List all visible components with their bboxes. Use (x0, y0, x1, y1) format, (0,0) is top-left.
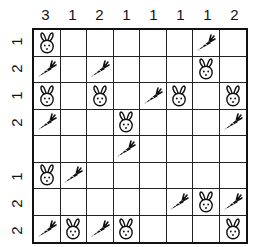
carrot-icon (89, 219, 111, 239)
grid-cell-r3-c6[interactable] (193, 110, 220, 137)
bunny-icon (196, 58, 216, 80)
grid-cell-r6-c0[interactable] (34, 189, 61, 216)
bunny-icon (116, 111, 136, 133)
grid-cell-r3-c7[interactable] (220, 110, 247, 137)
bunny-icon (169, 85, 189, 107)
row-clue (4, 136, 28, 163)
carrot-icon (222, 112, 244, 132)
bunny-icon (223, 85, 243, 107)
carrot-icon (168, 192, 190, 212)
column-clue: 1 (167, 6, 194, 24)
grid-cell-r7-c2[interactable] (87, 216, 114, 243)
grid-cell-r7-c5[interactable] (167, 216, 194, 243)
grid-cell-r3-c3[interactable] (114, 110, 141, 137)
bunny-icon (196, 191, 216, 213)
grid-cell-r6-c6[interactable] (193, 189, 220, 216)
carrot-icon (36, 112, 58, 132)
grid-cell-r6-c4[interactable] (140, 189, 167, 216)
carrot-icon (142, 86, 164, 106)
column-clue: 1 (140, 6, 167, 24)
grid-cell-r3-c0[interactable] (34, 110, 61, 137)
grid-cell-r4-c1[interactable] (61, 136, 88, 163)
grid-cell-r2-c3[interactable] (114, 83, 141, 110)
column-clue: 3 (32, 6, 59, 24)
grid-cell-r2-c1[interactable] (61, 83, 88, 110)
grid-cell-r0-c0[interactable] (34, 30, 61, 57)
grid-cell-r7-c6[interactable] (193, 216, 220, 243)
row-clue: 2 (4, 217, 28, 244)
column-clue: 1 (194, 6, 221, 24)
grid-cell-r1-c5[interactable] (167, 57, 194, 84)
grid-cell-r3-c5[interactable] (167, 110, 194, 137)
grid-cell-r4-c3[interactable] (114, 136, 141, 163)
grid-cell-r0-c2[interactable] (87, 30, 114, 57)
row-clues: 1 2 1 2 1 2 2 (4, 28, 28, 244)
grid-cell-r5-c2[interactable] (87, 163, 114, 190)
grid-cell-r7-c7[interactable] (220, 216, 247, 243)
bunny-icon (90, 85, 110, 107)
grid-cell-r6-c2[interactable] (87, 189, 114, 216)
grid-cell-r1-c2[interactable] (87, 57, 114, 84)
grid-cell-r0-c4[interactable] (140, 30, 167, 57)
bunny-icon (116, 218, 136, 240)
carrot-icon (36, 59, 58, 79)
grid-cell-r0-c6[interactable] (193, 30, 220, 57)
grid-cell-r1-c0[interactable] (34, 57, 61, 84)
grid-cell-r5-c6[interactable] (193, 163, 220, 190)
grid-cell-r1-c7[interactable] (220, 57, 247, 84)
grid-cell-r6-c5[interactable] (167, 189, 194, 216)
grid-cell-r0-c7[interactable] (220, 30, 247, 57)
grid-cell-r3-c2[interactable] (87, 110, 114, 137)
grid-cell-r4-c0[interactable] (34, 136, 61, 163)
grid-cell-r4-c5[interactable] (167, 136, 194, 163)
column-clues: 3 1 2 1 1 1 1 2 (32, 6, 248, 24)
grid-cell-r2-c2[interactable] (87, 83, 114, 110)
carrot-icon (222, 192, 244, 212)
grid-cell-r3-c4[interactable] (140, 110, 167, 137)
grid-cell-r5-c7[interactable] (220, 163, 247, 190)
grid-cell-r2-c7[interactable] (220, 83, 247, 110)
grid-cell-r3-c1[interactable] (61, 110, 88, 137)
grid-cell-r5-c4[interactable] (140, 163, 167, 190)
grid-cell-r7-c0[interactable] (34, 216, 61, 243)
grid-cell-r4-c6[interactable] (193, 136, 220, 163)
grid-cell-r4-c2[interactable] (87, 136, 114, 163)
row-clue: 2 (4, 190, 28, 217)
grid-cell-r0-c5[interactable] (167, 30, 194, 57)
grid-cell-r1-c4[interactable] (140, 57, 167, 84)
carrot-icon (62, 165, 84, 185)
carrot-icon (115, 139, 137, 159)
bunny-icon (37, 85, 57, 107)
puzzle-grid (32, 28, 248, 244)
grid-cell-r4-c7[interactable] (220, 136, 247, 163)
grid-cell-r0-c1[interactable] (61, 30, 88, 57)
grid-cell-r6-c3[interactable] (114, 189, 141, 216)
grid-cell-r4-c4[interactable] (140, 136, 167, 163)
column-clue: 1 (59, 6, 86, 24)
grid-cell-r7-c3[interactable] (114, 216, 141, 243)
grid-cell-r1-c1[interactable] (61, 57, 88, 84)
grid-cell-r7-c1[interactable] (61, 216, 88, 243)
carrot-icon (36, 219, 58, 239)
grid-cell-r2-c6[interactable] (193, 83, 220, 110)
grid-cell-r5-c5[interactable] (167, 163, 194, 190)
bunny-icon (223, 218, 243, 240)
column-clue: 1 (113, 6, 140, 24)
bunny-icon (63, 218, 83, 240)
grid-cell-r6-c1[interactable] (61, 189, 88, 216)
grid-cell-r1-c6[interactable] (193, 57, 220, 84)
grid-cell-r6-c7[interactable] (220, 189, 247, 216)
column-clue: 2 (86, 6, 113, 24)
grid-cell-r2-c0[interactable] (34, 83, 61, 110)
grid-cell-r5-c1[interactable] (61, 163, 88, 190)
grid-cell-r2-c4[interactable] (140, 83, 167, 110)
grid-cell-r5-c0[interactable] (34, 163, 61, 190)
grid-cell-r2-c5[interactable] (167, 83, 194, 110)
grid-cell-r0-c3[interactable] (114, 30, 141, 57)
bunny-icon (37, 32, 57, 54)
row-clue: 1 (4, 163, 28, 190)
grid-cell-r5-c3[interactable] (114, 163, 141, 190)
grid-cell-r1-c3[interactable] (114, 57, 141, 84)
carrot-icon (89, 59, 111, 79)
grid-cell-r7-c4[interactable] (140, 216, 167, 243)
